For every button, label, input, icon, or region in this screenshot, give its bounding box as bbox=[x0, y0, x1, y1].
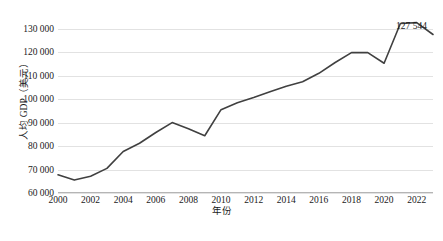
y-tick-label: 130 000 bbox=[2, 24, 54, 34]
x-axis-title: 年份 bbox=[0, 206, 443, 217]
y-tick-label: 100 000 bbox=[2, 94, 54, 104]
series-line-gdp-per-capita bbox=[58, 17, 433, 193]
plot-area bbox=[58, 17, 433, 193]
y-tick-label: 90 000 bbox=[2, 118, 54, 128]
figure-gdp-per-capita: 人均 GDP（美元） 60 00070 00080 00090 000100 0… bbox=[0, 0, 443, 241]
y-tick-label: 120 000 bbox=[2, 47, 54, 57]
y-tick-label: 80 000 bbox=[2, 141, 54, 151]
x-tick-label: 2022 bbox=[397, 194, 437, 206]
series-polyline bbox=[58, 23, 433, 180]
chart-plot-container: 人均 GDP（美元） 60 00070 00080 00090 000100 0… bbox=[0, 0, 443, 225]
y-axis-tick-labels: 60 00070 00080 00090 000100 000110 00012… bbox=[2, 17, 54, 193]
y-tick-label: 70 000 bbox=[2, 165, 54, 175]
end-value-label: 127 544 bbox=[396, 21, 427, 32]
y-tick-label: 110 000 bbox=[2, 71, 54, 81]
